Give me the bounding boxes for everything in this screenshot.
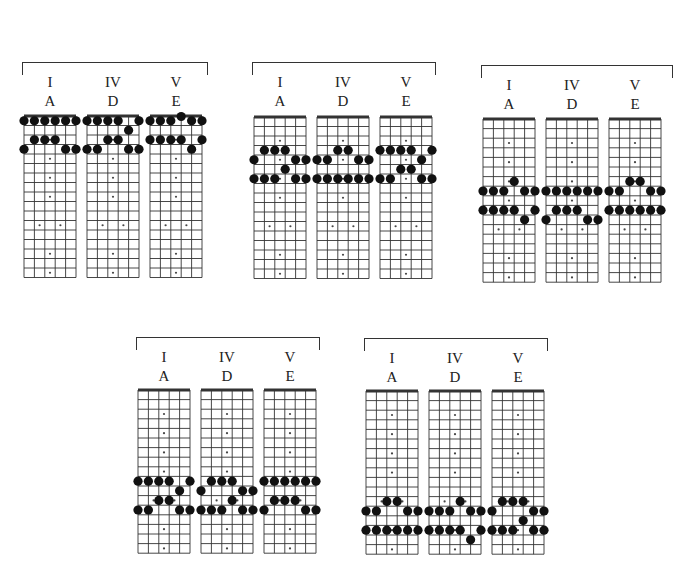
finger-dot-icon [445,526,454,535]
degree-label: V [491,349,545,367]
fretboard-d [195,387,259,558]
finger-dot-icon [541,186,550,195]
finger-dot-icon [144,477,153,486]
finger-dot-icon [291,155,300,164]
finger-dot-icon [476,506,485,515]
finger-dot-icon [134,145,143,154]
fret-marker-icon [571,180,573,182]
finger-dot-icon [196,505,205,514]
finger-dot-icon [466,506,475,515]
finger-dot-icon [520,186,529,195]
finger-dot-icon [30,135,39,144]
finger-dot-icon [291,496,300,505]
finger-dot-icon [656,206,665,215]
fret-marker-icon [112,253,114,255]
fret-marker-icon [112,196,114,198]
finger-dot-icon [238,505,247,514]
fret-marker-icon [289,528,291,530]
finger-dot-icon [281,165,290,174]
finger-dot-icon [248,505,257,514]
finger-dot-icon [508,526,517,535]
fret-marker-icon [49,158,51,160]
fretboard-e [258,387,322,558]
fret-marker-icon [279,273,281,275]
finger-dot-icon [552,206,561,215]
finger-dot-icon [165,477,174,486]
fret-marker-icon [508,276,510,278]
finger-dot-icon [185,477,194,486]
chord-label: E [608,95,662,113]
finger-dot-icon [519,516,528,525]
fret-marker-icon [49,177,51,179]
degree-label: I [482,76,536,94]
fret-marker-icon [289,451,291,453]
finger-dot-icon [312,174,321,183]
fret-marker-icon [226,547,228,549]
fret-marker-icon [165,224,167,226]
finger-dot-icon [93,116,102,125]
finger-dot-icon [301,155,310,164]
chord-label: E [263,367,317,385]
fretboard-d [540,116,604,287]
finger-dot-icon [466,535,475,544]
finger-dot-icon [427,174,436,183]
finger-dot-icon [291,174,300,183]
fret-marker-icon [175,253,177,255]
finger-dot-icon [145,116,154,125]
fret-marker-icon [391,414,393,416]
chord-label: D [200,367,254,385]
chord-label: A [23,92,77,110]
fret-marker-icon [163,528,165,530]
finger-dot-icon [562,186,571,195]
fret-marker-icon [405,197,407,199]
finger-dot-icon [51,116,60,125]
fret-marker-icon [226,432,228,434]
finger-dot-icon [156,116,165,125]
fret-marker-icon [163,471,165,473]
fret-marker-icon [405,273,407,275]
finger-dot-icon [372,526,381,535]
finger-dot-icon [487,526,496,535]
fretboard-a [132,387,196,558]
finger-dot-icon [625,177,634,186]
fret-marker-icon [112,177,114,179]
finger-dot-icon [487,506,496,515]
fret-marker-icon [112,158,114,160]
finger-dot-icon [103,135,112,144]
degree-label: IV [428,349,482,367]
fret-marker-icon [269,225,271,227]
finger-dot-icon [238,486,247,495]
finger-dot-icon [82,145,91,154]
fret-marker-icon [405,254,407,256]
fret-marker-icon [571,200,573,202]
fret-marker-icon [517,433,519,435]
finger-dot-icon [489,206,498,215]
finger-dot-icon [311,505,320,514]
degree-label: I [253,73,307,91]
finger-dot-icon [573,206,582,215]
finger-dot-icon [124,126,133,135]
degree-label: I [137,348,191,366]
finger-dot-icon [508,497,517,506]
finger-dot-icon [510,177,519,186]
finger-dot-icon [187,116,196,125]
finger-dot-icon [520,215,529,224]
fret-marker-icon [332,225,334,227]
finger-dot-icon [498,497,507,506]
finger-dot-icon [30,116,39,125]
finger-dot-icon [344,174,353,183]
finger-dot-icon [207,477,216,486]
fret-marker-icon [163,413,165,415]
chord-label: D [316,92,370,110]
fret-marker-icon [634,161,636,163]
fret-marker-icon [518,228,520,230]
finger-dot-icon [291,477,300,486]
finger-dot-icon [175,486,184,495]
finger-dot-icon [19,145,28,154]
finger-dot-icon [413,526,422,535]
fret-marker-icon [391,548,393,550]
finger-dot-icon [260,146,269,155]
fretboard-a [360,388,424,559]
finger-dot-icon [196,486,205,495]
finger-dot-icon [281,146,290,155]
